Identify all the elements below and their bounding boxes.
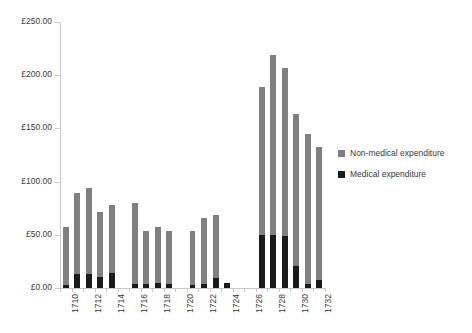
bar-1713[interactable] bbox=[97, 212, 103, 288]
chart-container: £0.00£50.00£100.00£150.00£200.00£250.00 … bbox=[0, 0, 472, 333]
x-axis-tick-mark bbox=[210, 288, 211, 292]
bar-1732[interactable] bbox=[316, 147, 322, 289]
x-axis-tick-mark bbox=[279, 288, 280, 292]
bar-segment-non-medical bbox=[190, 231, 196, 285]
x-axis-tick-mark bbox=[313, 288, 314, 292]
bar-segment-medical bbox=[109, 273, 115, 288]
bar-segment-medical bbox=[305, 284, 311, 288]
bar-segment-medical bbox=[282, 236, 288, 288]
x-axis-tick-label: 1714 bbox=[116, 294, 126, 313]
x-axis-tick-mark bbox=[325, 288, 326, 292]
bar-segment-non-medical bbox=[166, 231, 172, 284]
x-axis-line bbox=[60, 288, 326, 289]
x-axis-tick-mark bbox=[175, 288, 176, 292]
x-axis-tick-label: 1732 bbox=[323, 294, 333, 313]
bar-segment-medical bbox=[63, 285, 69, 288]
bar-segment-medical bbox=[86, 274, 92, 288]
legend-swatch-icon bbox=[338, 150, 345, 157]
bar-1712[interactable] bbox=[86, 188, 92, 288]
bar-1711[interactable] bbox=[74, 193, 80, 288]
x-axis-tick-mark bbox=[72, 288, 73, 292]
x-axis-tick-mark bbox=[83, 288, 84, 292]
bar-segment-medical bbox=[213, 278, 219, 288]
y-axis-tick-label: £100.00 bbox=[0, 177, 52, 186]
x-axis-tick-mark bbox=[198, 288, 199, 292]
bar-segment-non-medical bbox=[132, 203, 138, 284]
legend-swatch-icon bbox=[338, 171, 345, 178]
x-axis-tick-label: 1728 bbox=[277, 294, 287, 313]
x-axis-tick-mark bbox=[118, 288, 119, 292]
x-axis-tick-label: 1724 bbox=[231, 294, 241, 313]
bar-1727[interactable] bbox=[259, 87, 265, 288]
bar-1724[interactable] bbox=[224, 283, 230, 288]
plot-area bbox=[60, 22, 325, 288]
bar-segment-medical bbox=[74, 274, 80, 288]
bar-1717[interactable] bbox=[143, 231, 149, 288]
y-axis-tick-label: £50.00 bbox=[0, 230, 52, 239]
bar-1714[interactable] bbox=[109, 205, 115, 288]
x-axis-tick-label: 1718 bbox=[162, 294, 172, 313]
x-axis-tick-label: 1716 bbox=[139, 294, 149, 313]
x-axis-tick-label: 1722 bbox=[208, 294, 218, 313]
bar-segment-medical bbox=[132, 284, 138, 288]
x-axis-tick-mark bbox=[187, 288, 188, 292]
bar-segment-medical bbox=[166, 284, 172, 288]
bar-1721[interactable] bbox=[190, 231, 196, 288]
bar-1710[interactable] bbox=[63, 227, 69, 288]
bar-1716[interactable] bbox=[132, 203, 138, 288]
bar-1730[interactable] bbox=[293, 114, 299, 288]
x-axis-tick-label: 1710 bbox=[70, 294, 80, 313]
x-axis-tick-mark bbox=[164, 288, 165, 292]
x-axis-tick-mark bbox=[106, 288, 107, 292]
bar-segment-non-medical bbox=[316, 147, 322, 280]
bar-segment-medical bbox=[155, 283, 161, 288]
bar-segment-non-medical bbox=[270, 55, 276, 235]
bar-segment-non-medical bbox=[74, 193, 80, 274]
x-axis-tick-mark bbox=[129, 288, 130, 292]
x-axis-tick-label: 1712 bbox=[93, 294, 103, 313]
y-axis-tick-label: £200.00 bbox=[0, 70, 52, 79]
bar-1723[interactable] bbox=[213, 215, 219, 288]
bar-segment-non-medical bbox=[63, 227, 69, 284]
x-axis-tick-mark bbox=[95, 288, 96, 292]
bar-segment-non-medical bbox=[259, 87, 265, 235]
bar-segment-medical bbox=[259, 235, 265, 288]
legend-item-label: Medical expenditure bbox=[350, 169, 426, 179]
bar-1731[interactable] bbox=[305, 134, 311, 288]
bar-1728[interactable] bbox=[270, 55, 276, 288]
x-axis-tick-label: 1726 bbox=[254, 294, 264, 313]
x-axis-tick-label: 1730 bbox=[300, 294, 310, 313]
bar-segment-non-medical bbox=[109, 205, 115, 273]
y-axis-tick-label: £250.00 bbox=[0, 17, 52, 26]
y-axis-tick-label: £0.00 bbox=[0, 283, 52, 292]
x-axis-tick-mark bbox=[267, 288, 268, 292]
y-axis-tick-label: £150.00 bbox=[0, 123, 52, 132]
bar-segment-medical bbox=[270, 235, 276, 288]
bar-segment-non-medical bbox=[213, 215, 219, 279]
x-axis-tick-mark bbox=[256, 288, 257, 292]
bar-1719[interactable] bbox=[166, 231, 172, 288]
legend-item-label: Non-medical expenditure bbox=[350, 148, 445, 158]
chart-legend: Non-medical expenditureMedical expenditu… bbox=[338, 148, 445, 190]
x-axis-tick-mark bbox=[221, 288, 222, 292]
bar-1718[interactable] bbox=[155, 227, 161, 288]
bar-segment-medical bbox=[224, 283, 230, 288]
bar-segment-non-medical bbox=[282, 68, 288, 236]
x-axis-tick-mark bbox=[152, 288, 153, 292]
x-axis-tick-mark bbox=[60, 288, 61, 292]
legend-item[interactable]: Medical expenditure bbox=[338, 169, 445, 179]
x-axis-tick-mark bbox=[233, 288, 234, 292]
legend-item[interactable]: Non-medical expenditure bbox=[338, 148, 445, 158]
bar-1729[interactable] bbox=[282, 68, 288, 288]
x-axis-tick-mark bbox=[302, 288, 303, 292]
bar-segment-non-medical bbox=[201, 218, 207, 284]
bar-segment-medical bbox=[201, 284, 207, 288]
bar-segment-medical bbox=[97, 277, 103, 288]
bar-segment-medical bbox=[190, 285, 196, 288]
x-axis-tick-mark bbox=[244, 288, 245, 292]
bar-segment-non-medical bbox=[97, 212, 103, 277]
x-axis-tick-mark bbox=[290, 288, 291, 292]
bar-segment-non-medical bbox=[143, 231, 149, 284]
x-axis-tick-label: 1720 bbox=[185, 294, 195, 313]
bar-1722[interactable] bbox=[201, 218, 207, 288]
